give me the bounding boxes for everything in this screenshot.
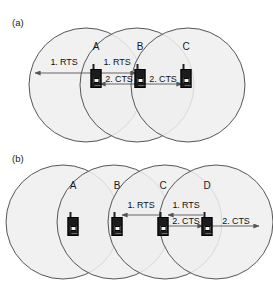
walkie-talkie-icon-a-C: [181, 64, 192, 88]
device-screen: [184, 78, 190, 83]
device-screen: [161, 226, 167, 231]
device-screen: [94, 78, 100, 83]
device-grill: [205, 233, 211, 234]
device-body: [181, 69, 192, 88]
device-body: [68, 217, 79, 236]
device-body: [112, 217, 123, 236]
device-grill: [138, 85, 144, 86]
message-label-b-cts-c-d: 2. CTS: [172, 216, 199, 226]
device-body: [202, 217, 213, 236]
device-screen: [205, 226, 211, 231]
device-grill: [71, 233, 77, 234]
device-grill: [94, 85, 100, 86]
node-letter-b-D: D: [203, 180, 210, 191]
walkie-talkie-icon-b-D: [202, 212, 213, 236]
device-screen: [115, 226, 121, 231]
node-letter-b-C: C: [159, 180, 166, 191]
message-label-b-rts-c-b: 1. RTS: [127, 200, 154, 210]
rts-cts-hidden-terminal-figure: (a) (b) 1. RTS1. RTS2. CTS2. CTSABC1. RT…: [0, 0, 273, 282]
walkie-talkie-icon-b-C: [158, 212, 169, 236]
node-letter-a-A: A: [93, 41, 100, 52]
node-letter-a-B: B: [137, 41, 144, 52]
device-body: [158, 217, 169, 236]
message-label-a-rts-left: 1. RTS: [50, 57, 77, 67]
message-label-a-cts-b-c: 2. CTS: [149, 74, 176, 84]
node-letter-b-B: B: [114, 180, 121, 191]
walkie-talkie-icon-a-B: [135, 64, 146, 88]
walkie-talkie-icon-b-B: [112, 212, 123, 236]
device-body: [91, 69, 102, 88]
device-grill: [161, 233, 167, 234]
message-label-a-cts-b-a: 2. CTS: [105, 74, 132, 84]
message-label-b-rts-d-c: 1. RTS: [172, 200, 199, 210]
message-label-b-cts-d-right: 2. CTS: [222, 216, 249, 226]
walkie-talkie-icon-b-A: [68, 212, 79, 236]
device-screen: [71, 226, 77, 231]
node-letter-a-C: C: [182, 41, 189, 52]
walkie-talkie-icon-a-A: [91, 64, 102, 88]
device-screen: [138, 78, 144, 83]
device-grill: [115, 233, 121, 234]
nodes-and-labels-overlay: 1. RTS1. RTS2. CTS2. CTSABC1. RTS1. RTS2…: [0, 0, 273, 282]
node-letter-b-A: A: [70, 180, 77, 191]
device-grill: [184, 85, 190, 86]
message-label-a-rts-a-b: 1. RTS: [103, 57, 130, 67]
device-body: [135, 69, 146, 88]
